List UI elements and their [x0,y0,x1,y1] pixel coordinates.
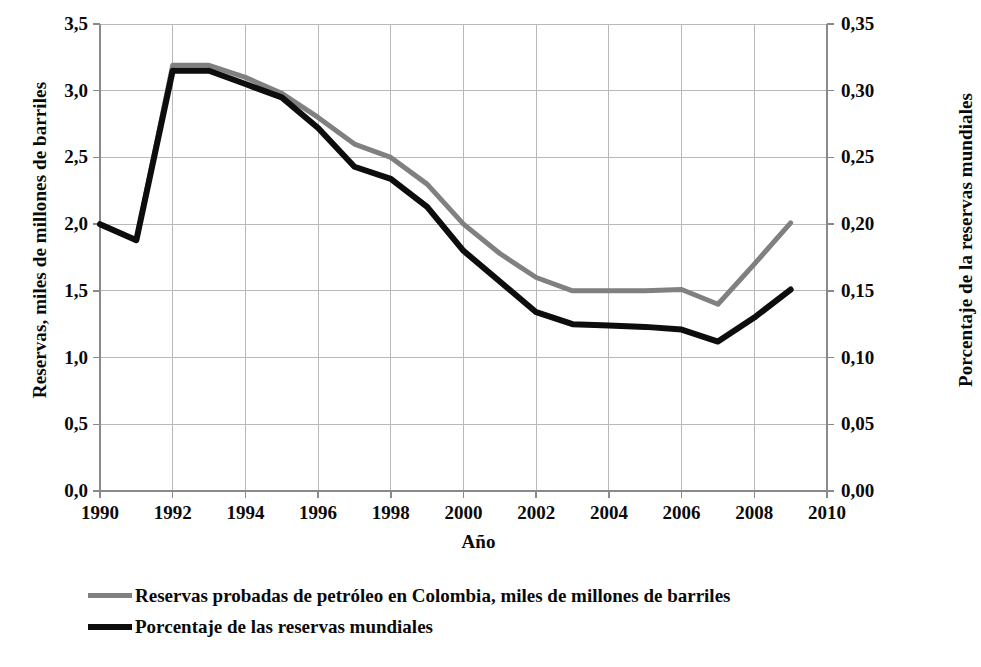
x-axis-tick-label: 2002 [501,503,571,522]
x-axis-tick-label: 2004 [574,503,644,522]
x-axis-tick-label: 1998 [356,503,426,522]
y-axis-right-tick-label: 0,25 [841,147,911,166]
y-axis-right-tick-label: 0,30 [841,81,911,100]
y-axis-right-tick-label: 0,00 [841,481,911,500]
y-axis-right-title: Porcentaje de la reservas mundiales [956,0,981,490]
y-axis-right-tick-label: 0,05 [841,414,911,433]
gridlines [100,24,827,491]
legend-line-swatch-black [88,624,132,630]
legend-label-porcentaje: Porcentaje de las reservas mundiales [135,617,433,636]
x-axis-tick-label: 2010 [792,503,862,522]
x-axis-tick-label: 1990 [65,503,135,522]
y-axis-left-title: Reservas, miles de millones de barriles [30,0,60,490]
series-line-reservas [100,65,791,304]
legend-item-reservas: Reservas probadas de petróleo en Colombi… [88,580,948,611]
x-axis-title: Año [0,532,957,551]
y-axis-right-tick-label: 0,15 [841,281,911,300]
legend-item-porcentaje: Porcentaje de las reservas mundiales [88,611,948,642]
x-axis-tick-label: 1994 [210,503,280,522]
x-axis-tick-label: 1996 [283,503,353,522]
x-axis-tick-label: 2006 [647,503,717,522]
series-lines [100,65,791,341]
chart-legend: Reservas probadas de petróleo en Colombi… [88,580,948,642]
legend-label-reservas: Reservas probadas de petróleo en Colombi… [135,586,730,605]
y-axis-right-tick-label: 0,20 [841,214,911,233]
y-axis-right-tick-label: 0,10 [841,348,911,367]
y-axis-right-tick-label: 0,35 [841,14,911,33]
x-axis-tick-label: 2000 [429,503,499,522]
x-axis-tick-label: 2008 [719,503,789,522]
legend-line-swatch-gray [88,593,132,598]
x-axis-tick-label: 1992 [138,503,208,522]
